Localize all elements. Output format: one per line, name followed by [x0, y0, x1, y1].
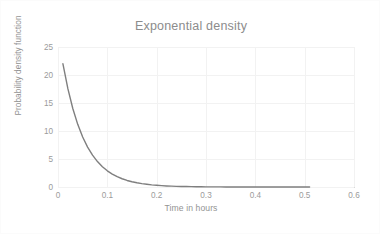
chart-title: Exponential density	[1, 19, 380, 33]
x-tick-label: 0.6	[334, 191, 374, 200]
chart-container: Exponential density Probability density …	[0, 0, 380, 234]
y-axis-title: Probability density function	[14, 1, 23, 131]
x-tick-label: 0	[38, 191, 78, 200]
y-axis-tick-labels: 0510152025	[27, 47, 53, 187]
y-tick-label: 15	[29, 99, 53, 108]
y-tick-label: 20	[29, 71, 53, 80]
y-tick-label: 10	[29, 127, 53, 136]
y-tick-label: 25	[29, 43, 53, 52]
exponential-density-curve	[58, 47, 354, 187]
plot-area	[58, 47, 354, 187]
x-tick-label: 0.1	[87, 191, 127, 200]
x-axis-title: Time in hours	[1, 203, 380, 213]
curve-path	[63, 64, 310, 187]
x-tick-label: 0.5	[285, 191, 325, 200]
x-tick-label: 0.3	[186, 191, 226, 200]
gridline-vertical	[354, 47, 355, 187]
x-tick-label: 0.2	[137, 191, 177, 200]
x-tick-label: 0.4	[235, 191, 275, 200]
y-tick-label: 5	[29, 155, 53, 164]
